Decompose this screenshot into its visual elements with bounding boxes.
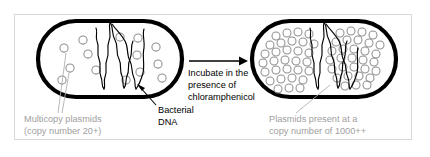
- incubate-arrow-head: [239, 57, 248, 66]
- right-cell-caption-line2: copy number of 1000++: [269, 126, 366, 136]
- left-cell-group: Multicopy plasmids (copy number 20+) Bac…: [24, 21, 194, 136]
- left-cell-caption-line1: Multicopy plasmids: [24, 114, 102, 124]
- plasmid-amplification-diagram: Multicopy plasmids (copy number 20+) Bac…: [0, 0, 430, 157]
- right-cell-group: Plasmids present at a copy number of 100…: [252, 21, 396, 136]
- incubate-label-line1: Incubate in the: [188, 68, 248, 78]
- figure-root: Multicopy plasmids (copy number 20+) Bac…: [0, 0, 430, 157]
- incubate-label-line2: presence of: [188, 80, 236, 90]
- transition-group: Incubate in the presence of chlorampheni…: [188, 57, 255, 103]
- left-cell-caption-line2: (copy number 20+): [24, 126, 101, 136]
- incubate-label-line3: chloramphenicol: [188, 92, 255, 102]
- bacterial-dna-label-line2: DNA: [158, 117, 178, 127]
- right-cell-caption-line1: Plasmids present at a: [269, 114, 358, 124]
- bacterial-dna-label-line1: Bacterial: [158, 105, 194, 115]
